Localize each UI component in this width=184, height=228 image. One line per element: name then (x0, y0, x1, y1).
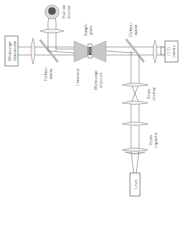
ccd-lens (153, 40, 157, 63)
beam-steering: Beam steering (122, 83, 156, 105)
expander-lens-bottom (125, 152, 145, 154)
laser-label: Laser (133, 179, 138, 189)
objective-cone (92, 41, 106, 62)
position-detector: Position detector (45, 4, 71, 22)
sample-label-2: plane (88, 25, 93, 34)
illumination-lens (31, 38, 35, 64)
dichroic-right-label-2: mirror (133, 24, 138, 35)
expander-lens-top (122, 122, 148, 126)
microscope-objective: Microscope objective (92, 41, 106, 90)
expander-label-2: expander (153, 132, 158, 148)
dichroic-mirror-right: Dichroic mirror (126, 23, 144, 62)
microscope-illumination: Microscope illumination (5, 36, 18, 66)
objective-label-2: objective (98, 72, 103, 87)
beam-expander: Beam expander (122, 122, 158, 154)
ccd-mount (161, 47, 165, 55)
dichroic-left-label-2: mirror (48, 68, 53, 79)
laser: Laser (130, 173, 140, 196)
condenser-label: Condenser (75, 67, 80, 86)
optical-tweezers-diagram: Microscope illumination Dichroic mirror … (0, 0, 184, 228)
laser-path (131, 51, 139, 183)
illumination-label-2: illumination (12, 40, 17, 61)
detector-inner-icon (48, 7, 56, 15)
ccd-camera: CCD camera (161, 41, 178, 62)
steering-lens-top (122, 83, 148, 87)
detector-label-2: detector (66, 5, 71, 19)
dichroic-mirror-right-glyph (126, 39, 144, 62)
detector-beam (48, 22, 76, 53)
ccd-label-2: camera (171, 45, 176, 57)
condenser-cone (74, 41, 88, 62)
expander-lens-mid (122, 148, 148, 152)
steering-label-2: steering (151, 86, 156, 100)
steering-lens-bottom (122, 101, 148, 105)
condenser: Condenser (74, 41, 88, 86)
detector-lens (40, 29, 64, 33)
dichroic-mirror-left: Dichroic mirror (40, 40, 58, 81)
